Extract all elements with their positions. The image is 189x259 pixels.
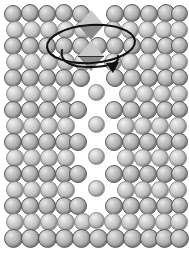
diamond-upper-face [78, 10, 104, 25]
lattice-sphere [69, 165, 87, 183]
lattice-sphere [105, 165, 123, 183]
lattice-sphere [88, 180, 105, 197]
lattice-sphere [55, 4, 73, 22]
lattice-sphere [72, 69, 90, 87]
lattice-sphere [171, 5, 188, 22]
lattice-sphere [105, 101, 123, 119]
lattice-sphere [69, 133, 87, 151]
lattice-sphere [171, 133, 188, 150]
lattice-sphere [123, 4, 141, 22]
lattice-sphere [171, 165, 188, 182]
lattice-sphere [106, 69, 124, 87]
interstitial-site-upper [78, 10, 104, 40]
diamond-upper-face [78, 41, 104, 56]
lattice-sphere [21, 4, 39, 22]
diamond-equator-edge [78, 56, 104, 57]
diamond-lower-face [78, 56, 104, 71]
diamond-lower-face [78, 25, 104, 40]
lattice-sphere [171, 197, 188, 214]
interstitial-site-lower [78, 41, 104, 71]
lattice-sphere [105, 133, 123, 151]
lattice-sphere [171, 37, 188, 54]
lattice-sphere [88, 116, 105, 133]
lattice-sphere [88, 148, 105, 165]
lattice-sphere [171, 69, 188, 86]
lattice-sphere [88, 212, 105, 229]
lattice-sphere [69, 101, 87, 119]
crystal-lattice-figure [0, 0, 189, 259]
lattice-sphere [170, 229, 189, 248]
lattice-sphere [88, 84, 105, 101]
diamond-equator-edge [78, 25, 104, 26]
lattice-sphere [171, 101, 188, 118]
